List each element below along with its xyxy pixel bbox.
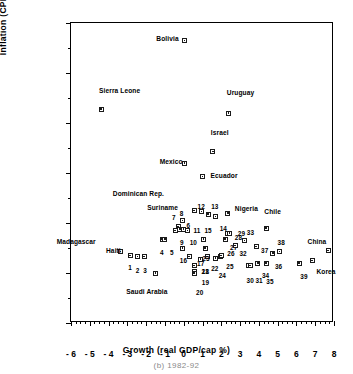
data-point-number-label: 20 [196, 289, 203, 296]
x-axis-minor-tick [193, 321, 194, 324]
y-axis-tick [66, 23, 71, 24]
x-axis-minor-tick [104, 321, 105, 324]
x-axis-tick [109, 321, 110, 326]
x-axis-minor-tick [311, 321, 312, 324]
x-axis-minor-tick [113, 321, 114, 324]
data-point-country-label: Dominican Rep. [113, 190, 164, 197]
data-point-marker [180, 246, 185, 251]
x-axis-minor-tick [141, 321, 142, 324]
scatter-chart-figure: Inflation (CPI %) Growth (real GDP/cap %… [0, 0, 353, 374]
data-point-marker [310, 258, 315, 263]
data-point-country-label: China [308, 238, 327, 245]
data-point-number-label: 15 [204, 227, 211, 234]
data-point-marker [248, 263, 253, 268]
x-axis-minor-tick [123, 321, 124, 324]
data-point-marker [297, 261, 302, 266]
x-axis-tick-label: - 6 [66, 349, 76, 359]
x-axis-tick [146, 321, 147, 326]
x-axis-tick [165, 321, 166, 326]
y-axis-tick [66, 323, 71, 324]
data-point-marker [128, 253, 133, 258]
data-point-marker [226, 111, 231, 116]
x-axis-minor-tick [151, 321, 152, 324]
x-axis-tick-label: 3 [238, 349, 243, 359]
data-point-marker [242, 238, 247, 243]
data-point-marker [199, 209, 204, 214]
x-axis-minor-tick [301, 321, 302, 324]
x-axis-tick [203, 321, 204, 326]
data-point-marker [201, 237, 206, 242]
x-axis-tick-label: 8 [332, 349, 337, 359]
plot-area: - 6- 5- 4- 3- 2- 1012345678-200204060801… [70, 22, 333, 322]
x-axis-minor-tick [132, 321, 133, 324]
x-axis-tick [334, 321, 335, 326]
data-point-number-label: 29 [238, 230, 245, 237]
data-point-number-label: 19 [202, 279, 209, 286]
data-point-marker [192, 263, 197, 268]
x-axis-minor-tick [156, 321, 157, 324]
data-point-number-label: 10 [190, 239, 197, 246]
x-axis-title: Growth (real GDP/cap %) [0, 345, 353, 355]
x-axis-minor-tick [235, 321, 236, 324]
data-point-marker [182, 161, 187, 166]
data-point-number-label: 8 [180, 210, 184, 217]
data-point-number-label: 7 [172, 214, 176, 221]
x-axis-minor-tick [76, 321, 77, 324]
x-axis-minor-tick [264, 321, 265, 324]
y-axis-tick [66, 173, 71, 174]
x-axis-tick-label: - 5 [85, 349, 95, 359]
y-axis-title: Inflation (CPI %) [0, 0, 8, 95]
x-axis-minor-tick [268, 321, 269, 324]
data-point-number-label: 30 [247, 277, 254, 284]
x-axis-tick [71, 321, 72, 326]
y-axis-tick [66, 273, 71, 274]
x-axis-minor-tick [99, 321, 100, 324]
x-axis-minor-tick [174, 321, 175, 324]
data-point-marker [200, 174, 205, 179]
data-point-country-label: Saudi Arabia [126, 288, 167, 295]
x-axis-minor-tick [249, 321, 250, 324]
data-point-country-label: Suriname [147, 204, 178, 211]
x-axis-tick [296, 321, 297, 326]
x-axis-tick-label: - 3 [122, 349, 132, 359]
x-axis-minor-tick [282, 321, 283, 324]
x-axis-minor-tick [217, 321, 218, 324]
data-point-country-label: Uruguay [227, 89, 254, 96]
data-point-country-label: Nigeria [235, 205, 258, 212]
data-point-country-label: Ecuador [211, 172, 238, 179]
data-point-marker [162, 237, 167, 242]
data-point-number-label: 11 [193, 227, 200, 234]
x-axis-tick [278, 321, 279, 326]
data-point-marker [213, 214, 218, 219]
y-axis-minor-tick [68, 298, 71, 299]
data-point-number-label: 36 [275, 263, 282, 270]
data-point-number-label: 33 [247, 229, 254, 236]
x-axis-tick-label: 7 [313, 349, 318, 359]
data-point-marker [99, 107, 104, 112]
data-point-marker [182, 38, 187, 43]
data-point-number-label: 25 [226, 263, 233, 270]
data-point-number-label: 35 [266, 278, 273, 285]
data-point-number-label: 2 [136, 267, 140, 274]
data-point-marker [185, 228, 190, 233]
data-point-marker [223, 237, 228, 242]
data-point-marker [326, 248, 331, 253]
data-point-marker [180, 218, 185, 223]
x-axis-minor-tick [198, 321, 199, 324]
y-axis-tick [66, 73, 71, 74]
data-point-country-label: Chile [264, 208, 281, 215]
data-point-marker [254, 244, 259, 249]
y-axis-minor-tick [68, 148, 71, 149]
data-point-number-label: 1 [128, 264, 132, 271]
x-axis-tick-label: - 1 [160, 349, 170, 359]
data-point-number-label: 21 [202, 268, 209, 275]
x-axis-minor-tick [94, 321, 95, 324]
x-axis-minor-tick [254, 321, 255, 324]
data-point-number-label: 4 [160, 249, 164, 256]
data-point-country-label: Mexico [160, 158, 183, 165]
x-axis-tick [184, 321, 185, 326]
data-point-number-label: 24 [219, 272, 226, 279]
data-point-marker [203, 246, 208, 251]
x-axis-minor-tick [306, 321, 307, 324]
x-axis-tick-label: 0 [181, 349, 186, 359]
